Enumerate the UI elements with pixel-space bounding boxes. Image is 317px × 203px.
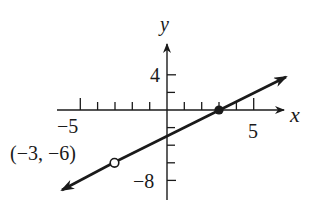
- coordinate-graph: y x −5 5 4 −8 (−3, −6): [0, 0, 317, 203]
- y-tick-label-neg8: −8: [133, 170, 154, 192]
- y-tick-label-4: 4: [150, 64, 160, 86]
- filled-point: [214, 105, 223, 114]
- open-point: [110, 159, 119, 168]
- graph-line: [62, 163, 113, 190]
- graph-line-upper: [117, 77, 286, 161]
- x-tick-label-5: 5: [248, 120, 258, 142]
- y-axis-label: y: [158, 13, 169, 36]
- open-point-label: (−3, −6): [10, 142, 76, 165]
- x-axis-label: x: [289, 102, 300, 127]
- x-tick-label-neg5: −5: [57, 115, 78, 137]
- y-ticks: [167, 75, 176, 181]
